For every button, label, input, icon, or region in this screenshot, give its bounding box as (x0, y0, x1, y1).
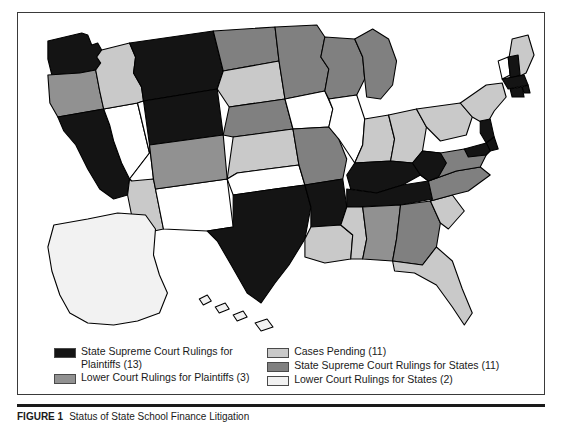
legend-swatch-state-supreme-court-rulings-for-states (267, 362, 289, 372)
legend-label-state-supreme-court-rulings-for-states: State Supreme Court Rulings for States (… (294, 359, 499, 372)
map-state-md[interactable]: Maryland (464, 143, 490, 157)
map-state-ak[interactable]: Alaska (48, 213, 168, 325)
map-state-wa[interactable]: Washington (48, 33, 102, 75)
legend-label-lower-court-rulings-for-states: Lower Court Rulings for States (2) (294, 373, 453, 386)
caption-rule (17, 404, 545, 407)
figure-frame: WashingtonOregonCaliforniaNevadaIdahoMon… (17, 12, 545, 395)
map-state-ct[interactable]: Connecticut (510, 87, 524, 97)
figure-caption-text: Status of State School Finance Litigatio… (69, 411, 249, 422)
map-state-nh[interactable]: New Hampshire (508, 55, 520, 79)
legend-label-cases-pending: Cases Pending (11) (294, 345, 386, 358)
map-state-la[interactable]: Louisiana (305, 225, 353, 263)
legend-label-lower-court-rulings-for-plaintiffs: Lower Court Rulings for Plaintiffs (3) (81, 371, 249, 384)
legend-label-state-supreme-court-rulings-for-plaintiffs: State Supreme Court Rulings for Plaintif… (81, 345, 233, 370)
legend-swatch-cases-pending (267, 348, 289, 358)
legend-item-cases-pending[interactable]: Cases Pending (11) (267, 345, 544, 358)
legend-item-state-supreme-court-rulings-for-states[interactable]: State Supreme Court Rulings for States (… (267, 359, 544, 372)
map-legend: State Supreme Court Rulings for Plaintif… (18, 345, 544, 393)
legend-swatch-state-supreme-court-rulings-for-plaintiffs (54, 348, 76, 358)
map-state-ar[interactable]: Arkansas (305, 179, 347, 227)
map-svg: WashingtonOregonCaliforniaNevadaIdahoMon… (18, 13, 544, 343)
legend-swatch-lower-court-rulings-for-states (267, 376, 289, 386)
legend-item-lower-court-rulings-for-states[interactable]: Lower Court Rulings for States (2) (267, 373, 544, 386)
legend-column-right: Cases Pending (11) State Supreme Court R… (267, 345, 544, 393)
figure-caption-label: FIGURE 1 (17, 411, 63, 422)
us-choropleth-map: WashingtonOregonCaliforniaNevadaIdahoMon… (18, 13, 544, 343)
legend-column-left: State Supreme Court Rulings for Plaintif… (18, 345, 267, 393)
map-state-co[interactable]: Colorado (150, 135, 228, 189)
legend-swatch-lower-court-rulings-for-plaintiffs (54, 374, 76, 384)
legend-item-state-supreme-court-rulings-for-plaintiffs[interactable]: State Supreme Court Rulings for Plaintif… (54, 345, 267, 370)
figure-caption: FIGURE 1Status of State School Finance L… (17, 411, 545, 424)
map-state-mn[interactable]: Minnesota (275, 25, 329, 99)
legend-item-lower-court-rulings-for-plaintiffs[interactable]: Lower Court Rulings for Plaintiffs (3) (54, 371, 267, 384)
